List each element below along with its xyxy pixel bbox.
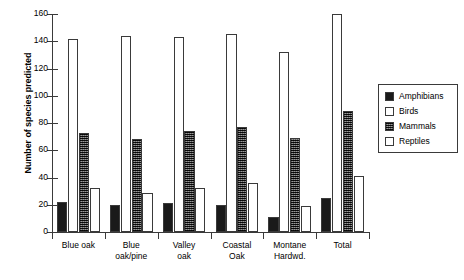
legend-label: Mammals bbox=[399, 121, 436, 131]
bar-reptiles-valley-oak bbox=[195, 188, 205, 232]
y-tick-label: 80 bbox=[8, 117, 48, 127]
legend-label: Birds bbox=[399, 106, 418, 116]
x-tick-mark bbox=[316, 232, 317, 239]
x-axis-label: CoastalOak bbox=[211, 240, 264, 261]
y-tick-label: 0 bbox=[8, 226, 48, 236]
bar-birds-blue-oak bbox=[68, 39, 78, 232]
bar-group bbox=[321, 14, 364, 232]
x-axis-label-line: Oak bbox=[211, 251, 264, 262]
bar-reptiles-blue-oak bbox=[90, 188, 100, 232]
y-tick-label: 100 bbox=[8, 90, 48, 100]
x-tick-mark bbox=[263, 232, 264, 239]
bar-group bbox=[57, 14, 100, 232]
legend-label: Reptiles bbox=[399, 136, 430, 146]
y-tick-label: 120 bbox=[8, 63, 48, 73]
bar-birds-coastal-oak bbox=[226, 34, 236, 232]
bar-chart-figure: Number of species predicted 020406080100… bbox=[0, 0, 464, 280]
bar-mammals-coastal-oak bbox=[237, 127, 247, 232]
x-axis-label-line: oak/pine bbox=[105, 251, 158, 262]
x-axis-label-line: Montane bbox=[263, 240, 316, 251]
bar-reptiles-total bbox=[354, 176, 364, 232]
legend-item-mammals[interactable]: Mammals bbox=[385, 121, 452, 131]
bar-group bbox=[110, 14, 153, 232]
x-tick-mark bbox=[52, 232, 53, 239]
x-axis-label: Valleyoak bbox=[158, 240, 211, 261]
x-axis-label-line: Coastal bbox=[211, 240, 264, 251]
bar-amphibians-total bbox=[321, 198, 331, 232]
bar-birds-blue-oak-pine bbox=[121, 36, 131, 232]
x-axis-label-line: Blue bbox=[105, 240, 158, 251]
y-tick-label: 160 bbox=[8, 8, 48, 18]
bar-amphibians-valley-oak bbox=[163, 203, 173, 232]
legend-item-reptiles[interactable]: Reptiles bbox=[385, 136, 452, 146]
legend-swatch-mammals bbox=[385, 122, 394, 131]
bar-reptiles-montane-hardwd bbox=[301, 206, 311, 232]
bar-reptiles-coastal-oak bbox=[248, 183, 258, 232]
y-tick-label: 140 bbox=[8, 35, 48, 45]
bar-birds-montane-hardwd bbox=[279, 52, 289, 232]
y-tick-label: 20 bbox=[8, 199, 48, 209]
x-axis-label-line: oak bbox=[158, 251, 211, 262]
bar-mammals-montane-hardwd bbox=[290, 138, 300, 232]
x-axis-label-line: Total bbox=[316, 240, 369, 251]
bar-reptiles-blue-oak-pine bbox=[142, 193, 152, 233]
bar-birds-total bbox=[332, 14, 342, 232]
legend-item-birds[interactable]: Birds bbox=[385, 106, 452, 116]
bar-mammals-blue-oak-pine bbox=[132, 139, 142, 232]
y-tick-label: 60 bbox=[8, 144, 48, 154]
x-axis-label-line: Blue oak bbox=[52, 240, 105, 251]
x-axis-label: Blue oak bbox=[52, 240, 105, 251]
x-tick-mark bbox=[369, 232, 370, 239]
x-axis-label: Total bbox=[316, 240, 369, 251]
bar-mammals-total bbox=[343, 111, 353, 232]
bar-birds-valley-oak bbox=[174, 37, 184, 232]
x-tick-mark bbox=[158, 232, 159, 239]
legend-swatch-reptiles bbox=[385, 137, 394, 146]
bar-group bbox=[216, 14, 259, 232]
legend-swatch-birds bbox=[385, 107, 394, 116]
x-axis-label: Blueoak/pine bbox=[105, 240, 158, 261]
legend-item-amphibians[interactable]: Amphibians bbox=[385, 91, 452, 101]
legend-label: Amphibians bbox=[399, 91, 443, 101]
bar-amphibians-coastal-oak bbox=[216, 205, 226, 232]
bar-group bbox=[163, 14, 206, 232]
x-tick-mark bbox=[105, 232, 106, 239]
x-tick-mark bbox=[211, 232, 212, 239]
x-axis-label: MontaneHardwd. bbox=[263, 240, 316, 261]
legend-swatch-amphibians bbox=[385, 92, 394, 101]
bar-amphibians-blue-oak bbox=[57, 202, 67, 232]
y-tick-label: 40 bbox=[8, 172, 48, 182]
bar-mammals-blue-oak bbox=[79, 133, 89, 232]
bar-mammals-valley-oak bbox=[184, 131, 194, 232]
bar-group bbox=[268, 14, 311, 232]
x-axis-label-line: Valley bbox=[158, 240, 211, 251]
bar-amphibians-montane-hardwd bbox=[268, 217, 278, 232]
plot-area: 020406080100120140160 bbox=[52, 14, 369, 233]
x-axis-label-line: Hardwd. bbox=[263, 251, 316, 262]
chart-legend: AmphibiansBirdsMammalsReptiles bbox=[378, 84, 458, 153]
bar-amphibians-blue-oak-pine bbox=[110, 205, 120, 232]
